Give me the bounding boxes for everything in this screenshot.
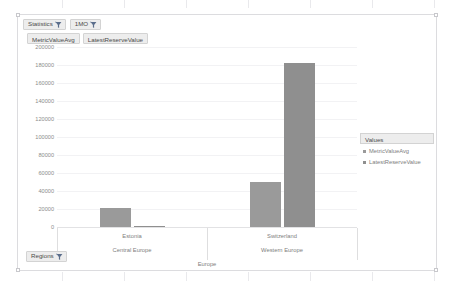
legend-title[interactable]: Values — [360, 133, 434, 144]
pivot-filter-row: Statistics 1MO — [23, 19, 101, 30]
pivot-filter-regions[interactable]: Regions — [26, 251, 67, 262]
filter-icon[interactable] — [90, 21, 97, 29]
x-axis-region-label: Western Europe — [207, 248, 357, 254]
y-axis-tick-label: 60000 — [14, 171, 54, 177]
pivot-filter-timeframe[interactable]: 1MO — [70, 19, 101, 30]
chart-legend: Values MetricValueAvg LatestReserveValue — [360, 133, 434, 166]
x-axis-country-label: Switzerland — [207, 234, 357, 240]
resize-handle-tr[interactable] — [434, 13, 438, 17]
resize-handle-bl[interactable] — [16, 268, 20, 272]
y-axis-tick-label: 20000 — [14, 207, 54, 213]
worksheet-tick — [124, 272, 125, 281]
pivot-field-latestreservevalue[interactable]: LatestReserveValue — [83, 33, 148, 44]
y-axis-tick-label: 0 — [14, 225, 54, 231]
y-axis-tick-label: 40000 — [14, 189, 54, 195]
y-axis-tick-label: 80000 — [14, 153, 54, 159]
pivot-filter-statistics[interactable]: Statistics — [23, 19, 66, 30]
legend-swatch-metricvalueavg — [363, 150, 366, 153]
worksheet-tick — [372, 0, 373, 8]
bar-switzerland-metricvalueavg[interactable] — [250, 182, 281, 227]
worksheet-tick — [62, 0, 63, 8]
resize-handle-br[interactable] — [434, 268, 438, 272]
worksheet-tick — [248, 272, 249, 281]
worksheet-tick — [310, 0, 311, 8]
pivot-filter-statistics-label: Statistics — [28, 21, 53, 27]
worksheet-tick — [434, 0, 435, 8]
bar-estonia-latestreservevalue[interactable] — [134, 226, 165, 227]
pivot-filter-timeframe-label: 1MO — [75, 21, 88, 27]
y-axis-tick-label: 100000 — [14, 135, 54, 141]
x-axis-country-label: Estonia — [57, 234, 207, 240]
legend-item-metricvalueavg: MetricValueAvg — [360, 149, 434, 155]
legend-label-latestreservevalue: LatestReserveValue — [369, 160, 421, 166]
pivot-field-metricvalueavg[interactable]: MetricValueAvg — [27, 33, 80, 44]
legend-swatch-latestreservevalue — [363, 161, 366, 164]
pivot-value-field-row: MetricValueAvg LatestReserveValue — [27, 33, 148, 44]
y-axis-tick-label: 180000 — [14, 63, 54, 69]
worksheet-tick — [186, 0, 187, 8]
pivot-filter-regions-label: Regions — [31, 253, 54, 259]
worksheet-tick — [310, 272, 311, 281]
axis-separator — [207, 228, 208, 260]
filter-icon[interactable] — [55, 21, 62, 29]
bar-series-layer — [57, 47, 357, 227]
bar-estonia-metricvalueavg[interactable] — [100, 208, 131, 227]
worksheet-tick — [372, 272, 373, 281]
legend-item-latestreservevalue: LatestReserveValue — [360, 160, 434, 166]
filter-icon[interactable] — [56, 253, 63, 261]
bar-switzerland-latestreservevalue[interactable] — [284, 63, 315, 227]
resize-handle-tl[interactable] — [16, 13, 20, 17]
x-axis-root-label: Europe — [57, 262, 357, 268]
worksheet-tick — [434, 272, 435, 281]
worksheet-tick — [248, 0, 249, 8]
legend-label-metricvalueavg: MetricValueAvg — [369, 149, 409, 155]
y-axis-tick-label: 160000 — [14, 81, 54, 87]
y-axis-tick-label: 200000 — [14, 45, 54, 51]
plot-area: 2000001800001600001400001200001000008000… — [57, 47, 357, 227]
worksheet-tick — [62, 272, 63, 281]
worksheet-tick — [186, 272, 187, 281]
y-axis-tick-label: 140000 — [14, 99, 54, 105]
pivot-chart-frame[interactable]: Statistics 1MO MetricValueAvg LatestRese… — [17, 14, 437, 271]
y-axis-tick-label: 120000 — [14, 117, 54, 123]
x-axis-region-label: Central Europe — [57, 248, 207, 254]
axis-separator — [357, 242, 358, 259]
worksheet-tick — [124, 0, 125, 8]
